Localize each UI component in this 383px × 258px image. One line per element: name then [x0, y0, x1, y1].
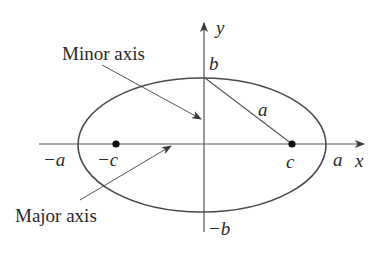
label-pos-b: b: [209, 53, 219, 74]
label-pos-c: c: [286, 151, 295, 172]
label-neg-c: −c: [97, 149, 119, 170]
minor-axis-pointer: [102, 65, 201, 119]
segment-a: [205, 78, 292, 144]
focus-pos-c: [288, 140, 295, 147]
major-axis-label: Major axis: [15, 205, 97, 226]
major-axis-pointer: [80, 146, 171, 200]
label-neg-a: −a: [43, 149, 65, 170]
minor-axis-label: Minor axis: [62, 43, 145, 64]
ellipse-diagram: Minor axis Major axis y x −a −c c a b −b…: [0, 0, 383, 258]
label-neg-b: −b: [208, 218, 230, 239]
label-segment-a: a: [258, 99, 268, 120]
label-pos-a: a: [333, 149, 343, 170]
x-axis-label: x: [354, 150, 364, 171]
y-axis-label: y: [214, 17, 225, 38]
focus-neg-c: [112, 140, 119, 147]
